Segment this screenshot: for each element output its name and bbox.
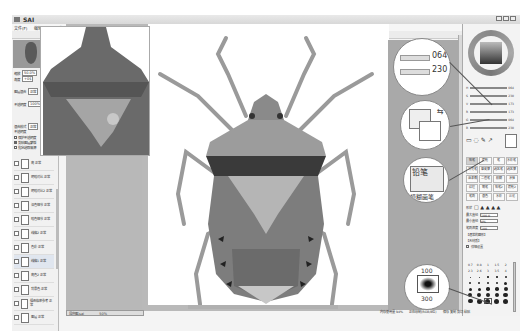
layer-name: 线稿1 正常 (31, 260, 46, 263)
layer-item[interactable]: 色彩 正常 (14, 241, 54, 255)
eye-icon[interactable] (14, 231, 19, 236)
selection-source-checkbox[interactable]: 指定选取来源 (14, 145, 36, 150)
eye-icon[interactable] (14, 217, 19, 222)
color-swatch-preview[interactable] (505, 134, 517, 148)
layer-thumbnail (21, 159, 29, 169)
eye-icon[interactable] (14, 259, 19, 264)
eye-icon[interactable] (14, 175, 19, 180)
brush-ink[interactable]: 钢笔 (479, 184, 491, 192)
stink-bug-illustration (148, 24, 389, 305)
app-title: SAI (23, 16, 34, 23)
checkbox-box[interactable] (14, 136, 17, 139)
title-bar: SAI (12, 15, 520, 24)
blend-mode-select[interactable]: 正常 (28, 123, 38, 130)
brush-pencil-2[interactable]: 铅笔2 (493, 184, 505, 192)
shape-options-icons[interactable]: □ ▲ ▲ ▲ ▲ (474, 204, 500, 210)
size-preset-dot[interactable] (466, 298, 475, 304)
max-size-field[interactable]: 100.0 (480, 213, 498, 217)
slider-r[interactable]: R173 (466, 110, 514, 114)
eye-icon[interactable] (14, 161, 19, 166)
layer-thumbnail (21, 173, 29, 183)
brush-select-eraser[interactable]: 选区擦 (506, 166, 518, 174)
density-field[interactable]: 100 (480, 226, 498, 230)
slider-s[interactable]: S230 (466, 94, 514, 98)
layer-item[interactable]: 图层 正常 (14, 311, 54, 325)
layer-blend-value[interactable]: 正常 (28, 88, 38, 95)
brush-brush[interactable]: 笔刷 (466, 193, 478, 201)
checkbox-box[interactable] (14, 141, 17, 144)
brush-pen[interactable]: 笔 (493, 157, 505, 165)
layer-thumbnail (21, 271, 29, 281)
checkbox-box[interactable] (14, 146, 17, 149)
layer-item[interactable]: 深色细节 正常 (14, 199, 54, 213)
minimize-button[interactable] (496, 16, 502, 21)
eye-icon[interactable] (14, 301, 19, 306)
brush-fade[interactable]: 淡化 (506, 193, 518, 201)
brush-texture[interactable]: 纹理 (466, 184, 478, 192)
eye-icon[interactable] (14, 273, 19, 278)
eye-icon[interactable] (14, 203, 19, 208)
eye-icon[interactable] (14, 245, 19, 250)
close-button[interactable] (510, 16, 516, 21)
brush-eraser[interactable]: 橡皮擦 (479, 166, 491, 174)
layer-thumbnail (21, 187, 29, 197)
drawing-canvas[interactable] (148, 24, 389, 305)
eye-icon[interactable] (14, 315, 19, 320)
document-tab-label: 昆虫图.sai (69, 312, 84, 316)
selection-tools-icons[interactable]: ▭ ◌ ✎ ↗ (466, 136, 493, 143)
min-size-field[interactable]: 0% (480, 219, 498, 223)
slider-label: V (466, 102, 469, 106)
layer-item[interactable]: 亮 正常 (14, 157, 54, 171)
slider-track[interactable] (470, 95, 507, 97)
layer-item[interactable]: 明暗对比 正常 (14, 171, 54, 185)
memory-usage: 内存使用量 94% (380, 309, 403, 314)
brush-texture-select[interactable]: 【无材质】 (466, 238, 481, 243)
brush-smudge[interactable]: 涂抹 (506, 175, 518, 183)
layer-thumbnail (21, 257, 29, 267)
size-preset-dot[interactable] (492, 298, 501, 304)
angle-value[interactable]: +0$ (22, 76, 33, 82)
layer-name: 插画临摹参考 正常 (30, 300, 54, 307)
layer-item[interactable]: 插画临摹参考 正常 (14, 297, 54, 311)
layer-item[interactable]: 暗色细节 正常 (14, 213, 54, 227)
layer-thumbnail (21, 285, 29, 295)
brush-shape-select[interactable]: 【通常的圆形】 (466, 232, 487, 237)
layer-thumbnail (21, 243, 29, 253)
layer-item-selected[interactable]: 线稿1 正常 (14, 255, 54, 269)
layer-item[interactable]: 背景色 正常 (14, 283, 54, 297)
size-top-value: 100 (421, 267, 432, 274)
maximize-button[interactable] (503, 16, 509, 21)
layer-item[interactable]: 亮色2 正常 (14, 269, 54, 283)
slider-track[interactable] (470, 103, 507, 105)
brush-bucket[interactable]: 油漆桶 (466, 175, 478, 183)
swap-colors-icon: ⇆ (437, 107, 444, 116)
slider-track[interactable] (470, 111, 507, 113)
brush-select-pen[interactable]: 选区笔 (493, 166, 505, 174)
size-preset-dot[interactable] (501, 298, 510, 304)
layer-thumbnail (21, 313, 29, 323)
brush-blur[interactable]: 模糊 (493, 175, 505, 183)
layer-item[interactable]: 明暗对比2 正常 (14, 185, 54, 199)
layer-scrollbar[interactable] (56, 189, 58, 269)
color-wheel[interactable] (468, 30, 514, 76)
size-preset-scrollbar[interactable] (513, 262, 516, 312)
layer-item[interactable]: 线稿2 正常 (14, 227, 54, 241)
brush-watercolor[interactable]: 水彩笔 (506, 157, 518, 165)
brush-binary[interactable]: 二值笔 (479, 175, 491, 183)
document-tab[interactable]: 昆虫图.sai 50% (66, 310, 144, 316)
detail-inset (40, 26, 150, 156)
brush-tool-grid: 铅笔 喷枪 笔 水彩笔 马克笔 橡皮擦 选区笔 选区擦 油漆桶 二值笔 模糊 涂… (466, 157, 518, 199)
brush-blend[interactable]: 混色 (479, 193, 491, 201)
checkbox-label: 指定选取来源 (18, 145, 36, 150)
slider-track[interactable] (470, 127, 507, 129)
eye-icon[interactable] (14, 287, 19, 292)
detail-checkbox[interactable] (466, 245, 469, 248)
sv-square[interactable] (480, 42, 502, 64)
eye-icon[interactable] (14, 189, 19, 194)
brush-airbrush-2[interactable]: 喷枪2 (506, 184, 518, 192)
slider-b[interactable]: B230 (466, 126, 514, 130)
layer-name: 亮色2 正常 (31, 274, 46, 277)
brush-water[interactable]: 水彩 (493, 193, 505, 201)
min-size-label: 最小直径 (466, 218, 478, 223)
menu-file[interactable]: 文件(F) (14, 25, 27, 31)
